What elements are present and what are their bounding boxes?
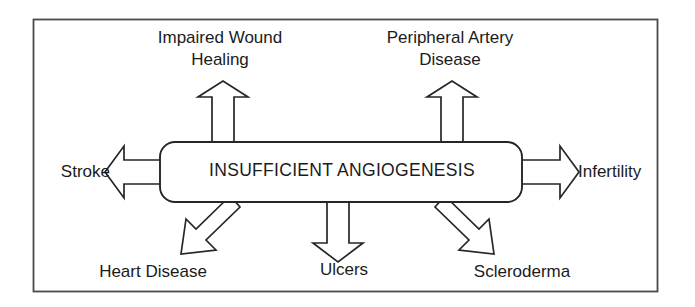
center-node-label: INSUFFICIENT ANGIOGENESIS (168, 160, 516, 181)
outcome-label-ulcers: Ulcers (278, 259, 410, 280)
outcome-label-scleroderma: Scleroderma (430, 261, 614, 282)
outcome-label-impaired-wound-healing: Impaired Wound Healing (118, 27, 322, 71)
outcome-label-infertility: Infertility (578, 161, 686, 182)
outcome-label-stroke: Stroke (18, 161, 110, 182)
angiogenesis-diagram: Impaired Wound Healing Peripheral Artery… (0, 0, 695, 307)
outcome-label-peripheral-artery-disease: Peripheral Artery Disease (348, 27, 552, 71)
outcome-label-heart-disease: Heart Disease (58, 261, 248, 282)
